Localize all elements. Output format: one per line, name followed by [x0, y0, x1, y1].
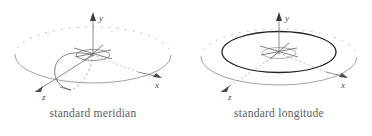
y-axis-arrowhead: [276, 12, 282, 21]
equatorial-ellipse-front: [15, 55, 171, 83]
x-axis-line-hidden: [93, 55, 138, 72]
rim-tick-left: [235, 35, 236, 36]
x-axis-arrowhead: [339, 73, 348, 78]
figure-standard-meridian: y x z standard meridian: [0, 0, 186, 136]
y-axis-label: y: [98, 13, 103, 23]
figure-row: y x z standard meridian: [0, 0, 372, 136]
standard-longitude-canvas: y x z: [186, 0, 372, 108]
meridian-arc-solid-tail: [60, 87, 71, 90]
origin-cross-line-3: [270, 43, 289, 59]
x-axis-label: x: [340, 80, 345, 90]
x-axis-label: x: [154, 80, 159, 90]
y-axis-arrowhead: [90, 12, 96, 21]
standard-meridian-canvas: y x z: [0, 0, 186, 108]
x-axis-arrowhead: [153, 73, 162, 78]
caption-standard-longitude: standard longitude: [234, 106, 324, 120]
origin-cross-line-3: [84, 45, 103, 61]
outer-ellipse-front: [201, 57, 357, 85]
z-axis-label: z: [41, 92, 46, 102]
rim-tick-right: [111, 30, 112, 31]
caption-standard-meridian: standard meridian: [50, 106, 137, 120]
rim-tick-left: [47, 33, 48, 34]
x-axis-line-hidden: [279, 53, 326, 72]
rim-tick-right: [301, 31, 302, 32]
figure-standard-longitude: y x z standard longitude: [186, 0, 372, 136]
y-axis-label: y: [284, 13, 289, 23]
z-axis-label: z: [227, 92, 232, 102]
